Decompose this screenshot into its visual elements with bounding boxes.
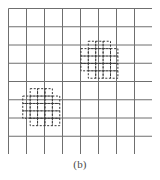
lower-left-dashed-cluster — [23, 89, 60, 126]
cluster-cell — [30, 111, 37, 118]
cluster-cell — [38, 96, 45, 103]
cluster-cell — [30, 96, 37, 103]
cluster-cell — [96, 71, 103, 78]
cluster-cell — [23, 111, 30, 118]
cluster-cell — [103, 63, 110, 70]
cluster-cell — [38, 111, 45, 118]
cluster-cell — [45, 96, 52, 103]
cluster-cell — [81, 49, 88, 56]
cluster-cell — [30, 89, 37, 96]
cluster-cell — [111, 63, 118, 70]
cluster-cell — [30, 103, 37, 110]
cluster-cell — [88, 56, 95, 63]
figure-caption: (b) — [0, 158, 160, 170]
cluster-cell — [52, 96, 59, 103]
grid-container — [8, 8, 152, 154]
cluster-cell — [96, 41, 103, 48]
cluster-cell — [103, 41, 110, 48]
cluster-cell — [38, 118, 45, 125]
figure-panel-b: (b) — [0, 0, 160, 180]
cluster-cell — [45, 103, 52, 110]
upper-right-dashed-cluster — [81, 41, 118, 78]
dashed-cluster-layer — [8, 8, 152, 154]
cluster-cell — [52, 111, 59, 118]
cluster-cell — [81, 56, 88, 63]
cluster-cell — [88, 49, 95, 56]
cluster-cell — [111, 56, 118, 63]
cluster-cell — [81, 63, 88, 70]
cluster-cell — [23, 96, 30, 103]
cluster-cell — [111, 49, 118, 56]
cluster-cell — [52, 103, 59, 110]
cluster-cell — [88, 71, 95, 78]
cluster-cell — [96, 49, 103, 56]
cluster-cell — [88, 41, 95, 48]
cluster-cell — [23, 103, 30, 110]
cluster-cell — [45, 89, 52, 96]
cluster-cell — [96, 63, 103, 70]
cluster-cell — [38, 103, 45, 110]
cluster-cell — [30, 118, 37, 125]
cluster-cell — [45, 111, 52, 118]
cluster-cell — [96, 56, 103, 63]
cluster-cell — [103, 71, 110, 78]
cluster-cell — [45, 118, 52, 125]
cluster-cell — [52, 118, 59, 125]
cluster-cell — [103, 49, 110, 56]
cluster-cell — [103, 56, 110, 63]
cluster-cell — [88, 63, 95, 70]
cluster-cell — [38, 89, 45, 96]
cluster-cell — [111, 71, 118, 78]
